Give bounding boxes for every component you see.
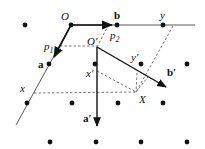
lattice-diagram: O b y p1 p2 O′ a x y′ x′ b′ X a′	[0, 0, 205, 149]
label-a: a	[38, 58, 44, 70]
vector-a	[54, 25, 71, 57]
label-p1: p1	[43, 40, 54, 55]
label-X: X	[138, 93, 147, 105]
lattice-point	[161, 101, 166, 106]
lattice-point	[185, 62, 190, 67]
lattice-point	[69, 23, 74, 28]
label-p2: p2	[109, 29, 120, 44]
label-y-prime: y′	[130, 51, 139, 63]
dash-x-to-X	[34, 92, 136, 93]
lattice-point	[93, 62, 98, 67]
label-y: y	[159, 9, 165, 21]
lattice-point	[185, 140, 190, 145]
dashed-construction-lines	[34, 26, 173, 93]
label-x-prime: x′	[85, 67, 94, 79]
dash-Oprime-to-p2	[97, 26, 108, 47]
lattice-point	[116, 101, 121, 106]
lattice-point	[115, 23, 120, 28]
lattice-point	[48, 140, 53, 145]
lattice-point	[139, 140, 144, 145]
dash-y-to-X	[136, 26, 173, 92]
lattice-point	[70, 101, 75, 106]
lattice-point	[23, 23, 28, 28]
label-b-prime: b′	[167, 66, 176, 78]
dash-xprime-to-X	[97, 71, 136, 92]
label-O: O	[61, 10, 69, 22]
dash-X-to-bprime-axis	[136, 77, 148, 92]
label-a-prime: a′	[83, 112, 92, 124]
lattice-point	[94, 140, 99, 145]
lattice-point	[25, 101, 30, 106]
label-b: b	[114, 9, 120, 21]
p1-sub: 1	[50, 46, 54, 55]
label-O-prime: O′	[87, 35, 98, 47]
lattice-point	[161, 23, 166, 28]
lattice-point	[47, 62, 52, 67]
label-x: x	[19, 82, 25, 94]
p2-sub: 2	[116, 35, 120, 44]
dash-yprime-to-X	[136, 73, 137, 92]
lattice-point	[139, 62, 144, 67]
